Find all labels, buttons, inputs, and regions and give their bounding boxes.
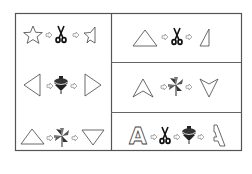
right-cell-2 (133, 77, 218, 97)
arrow-icon (161, 84, 167, 90)
scissors-icon (159, 127, 171, 144)
arrow-icon (47, 83, 53, 89)
half-triangle-shape (200, 29, 209, 46)
right-cell-1 (133, 28, 209, 46)
chevron-up-shape (133, 79, 153, 97)
triangle-up-shape (133, 30, 157, 46)
arrow-icon (186, 84, 192, 90)
pinwheel-icon (168, 77, 183, 96)
arrow-icon (186, 34, 192, 40)
star-shape (24, 26, 43, 43)
pinwheel-icon (54, 128, 69, 147)
puzzle-board: A (0, 0, 252, 174)
letter-a-shape: A (129, 123, 147, 149)
left-row-3 (21, 128, 104, 147)
half-letter-a-shape (214, 125, 225, 146)
scissors-icon (55, 26, 67, 43)
spinning-top-icon (182, 126, 196, 144)
left-row-1 (24, 26, 95, 43)
left-row-2 (24, 74, 101, 96)
arrow-icon (47, 135, 53, 141)
right-cell-3: A (129, 123, 225, 149)
arrow-icon (72, 135, 78, 141)
arrow-icon (71, 83, 77, 89)
scissors-icon (171, 28, 183, 45)
triangle-down-shape (82, 130, 104, 145)
arrow-icon (151, 134, 157, 140)
arrow-icon (46, 32, 52, 38)
arrow-icon (162, 34, 168, 40)
spinning-top-icon (54, 76, 68, 94)
chevron-down-shape (200, 79, 218, 97)
half-star-shape (84, 27, 95, 43)
arrow-icon (198, 134, 204, 140)
arrow-icon (73, 32, 79, 38)
arrow-icon (174, 134, 180, 140)
triangle-right-shape (85, 74, 101, 96)
triangle-up-shape (21, 129, 44, 144)
triangle-left-shape (24, 74, 40, 96)
